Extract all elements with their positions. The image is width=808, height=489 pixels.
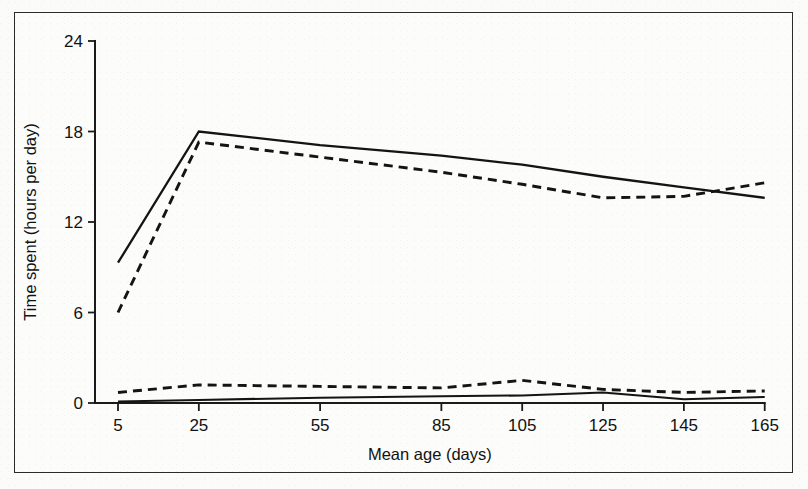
x-tick-label-125: 125 — [589, 416, 617, 435]
y-axis-ticks — [88, 41, 95, 403]
y-tick-label-18: 18 — [64, 123, 83, 142]
y-tick-label-12: 12 — [64, 213, 83, 232]
x-tick-label-165: 165 — [751, 416, 779, 435]
y-axis-title: Time spent (hours per day) — [21, 123, 39, 320]
series-line-lower-solid — [118, 392, 765, 401]
y-tick-label-0: 0 — [74, 394, 83, 413]
x-axis-tick-labels: 5255585105125145165 — [113, 416, 779, 435]
x-tick-label-5: 5 — [113, 416, 122, 435]
x-tick-label-55: 55 — [311, 416, 330, 435]
data-series-group — [118, 132, 765, 402]
x-axis-title: Mean age (days) — [368, 445, 492, 463]
y-tick-label-24: 24 — [64, 32, 83, 51]
line-chart: 06121824 5255585105125145165 Mean age (d… — [0, 0, 808, 489]
x-tick-label-105: 105 — [508, 416, 536, 435]
series-line-upper-dashed — [118, 142, 765, 312]
y-tick-label-6: 6 — [74, 304, 83, 323]
series-line-lower-dashed — [118, 380, 765, 392]
x-tick-label-25: 25 — [189, 416, 208, 435]
figure-container: 06121824 5255585105125145165 Mean age (d… — [0, 0, 808, 489]
x-axis-ticks — [118, 403, 765, 411]
x-tick-label-145: 145 — [670, 416, 698, 435]
y-axis-tick-labels: 06121824 — [64, 32, 83, 413]
x-tick-label-85: 85 — [432, 416, 451, 435]
